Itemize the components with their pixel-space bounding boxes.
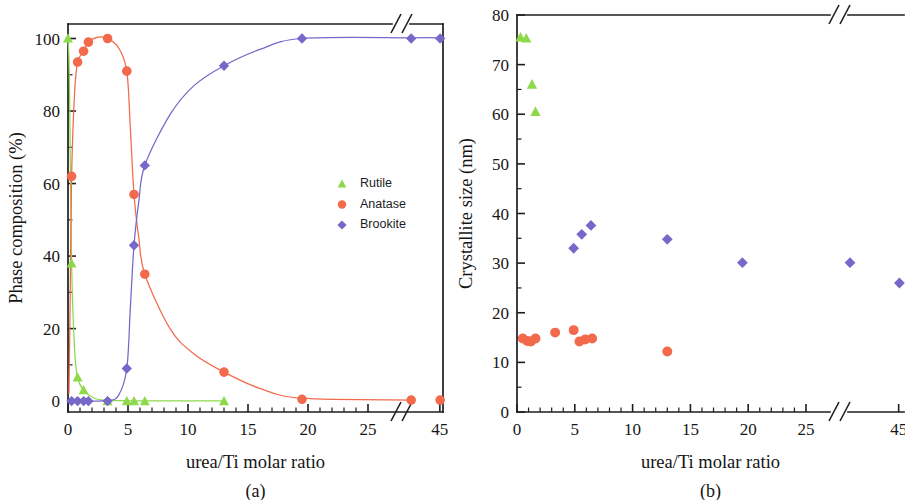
y-tick-label: 20 (43, 320, 60, 339)
y-tick-label: 80 (492, 6, 509, 25)
data-point-marker (662, 234, 673, 245)
data-point-marker (527, 79, 537, 89)
x-axis-title: urea/Ti molar ratio (186, 452, 325, 472)
x-tick-label: 5 (571, 420, 580, 439)
data-point-marker (297, 395, 307, 405)
y-tick-label: 0 (52, 392, 61, 411)
panel-caption: (a) (246, 481, 266, 500)
data-point-marker (569, 325, 579, 335)
x-tick-label: 20 (300, 420, 317, 439)
legend-item-label: Anatase (360, 197, 406, 211)
data-point-marker (103, 34, 113, 44)
data-point-marker (129, 240, 139, 250)
panel-caption: (b) (700, 481, 721, 500)
y-tick-label: 10 (492, 353, 509, 372)
data-point-marker (140, 160, 150, 170)
chart-svg-a: 051015202545020406080100urea/Ti molar ra… (0, 0, 452, 500)
data-point-marker (67, 172, 77, 182)
y-axis-title: Phase composition (%) (6, 132, 27, 304)
data-point-marker (84, 37, 94, 47)
data-point-marker (894, 278, 905, 289)
y-tick-label: 100 (35, 30, 61, 49)
x-tick-label: 10 (624, 420, 641, 439)
data-point-marker (587, 334, 597, 344)
x-tick-label: 10 (180, 420, 197, 439)
x-tick-label: 15 (682, 420, 699, 439)
data-point-marker (73, 57, 83, 67)
chart-panel-a: 051015202545020406080100urea/Ti molar ra… (0, 0, 452, 500)
y-tick-label: 70 (492, 56, 509, 75)
y-tick-label: 40 (492, 205, 509, 224)
data-point-marker (122, 363, 132, 373)
series-brookite (568, 220, 905, 288)
y-tick-label: 40 (43, 247, 60, 266)
y-tick-label: 30 (492, 254, 509, 273)
series-anatase (518, 325, 672, 356)
chart-panel-b: 05101520254501020304050607080urea/Ti mol… (452, 0, 904, 500)
x-tick-label: 45 (431, 420, 448, 439)
x-tick-label: 20 (740, 420, 757, 439)
data-point-marker (219, 367, 229, 377)
x-tick-label: 0 (513, 420, 522, 439)
legend-marker-triangle-icon (338, 179, 347, 187)
data-point-marker (435, 395, 445, 405)
figure-container: 051015202545020406080100urea/Ti molar ra… (0, 0, 905, 500)
data-point-marker (586, 220, 597, 231)
x-tick-label: 15 (240, 420, 257, 439)
y-tick-label: 50 (492, 155, 509, 174)
y-tick-label: 20 (492, 304, 509, 323)
legend-item-brookite[interactable]: Brookite (337, 217, 406, 231)
y-tick-label: 60 (43, 175, 60, 194)
legend-item-rutile[interactable]: Rutile (338, 176, 392, 190)
data-point-marker (79, 385, 89, 394)
legend: RutileAnataseBrookite (337, 176, 406, 231)
data-point-marker (406, 395, 416, 405)
legend-item-anatase[interactable]: Anatase (338, 197, 406, 211)
x-tick-label: 5 (124, 420, 133, 439)
data-point-marker (122, 66, 132, 76)
legend-item-label: Brookite (360, 217, 406, 231)
y-tick-label: 60 (492, 105, 509, 124)
fit-curve-rutile (68, 39, 224, 401)
data-point-marker (531, 334, 541, 344)
x-tick-label: 0 (64, 420, 73, 439)
data-point-marker (845, 257, 856, 268)
chart-svg-b: 05101520254501020304050607080urea/Ti mol… (452, 0, 904, 500)
data-point-marker (406, 33, 416, 43)
data-point-marker (79, 46, 89, 56)
y-axis-title: Crystallite size (nm) (456, 138, 477, 289)
data-point-marker (550, 328, 560, 338)
data-points-group (515, 32, 904, 356)
legend-marker-circle-icon (338, 200, 346, 208)
series-rutile (515, 32, 540, 116)
y-tick-label: 0 (501, 403, 510, 422)
x-tick-group: 051015202545 (64, 404, 449, 439)
data-point-marker (568, 243, 579, 254)
axes-group (517, 5, 904, 421)
series-rutile (63, 33, 229, 405)
x-tick-label: 45 (890, 420, 905, 439)
legend-marker-diamond-icon (337, 220, 346, 229)
data-point-marker (140, 269, 150, 279)
data-point-marker (297, 33, 307, 43)
data-point-marker (530, 106, 540, 116)
data-point-marker (73, 372, 83, 381)
data-point-marker (662, 346, 672, 356)
x-axis-title: urea/Ti molar ratio (641, 452, 780, 472)
data-point-marker (219, 61, 229, 71)
x-tick-label: 25 (798, 420, 815, 439)
data-point-marker (129, 190, 139, 200)
y-tick-group: 01020304050607080 (492, 6, 525, 422)
x-tick-label: 25 (360, 420, 377, 439)
legend-item-label: Rutile (360, 176, 392, 190)
y-tick-label: 80 (43, 102, 60, 121)
data-point-marker (737, 257, 748, 268)
data-point-marker (576, 229, 587, 240)
